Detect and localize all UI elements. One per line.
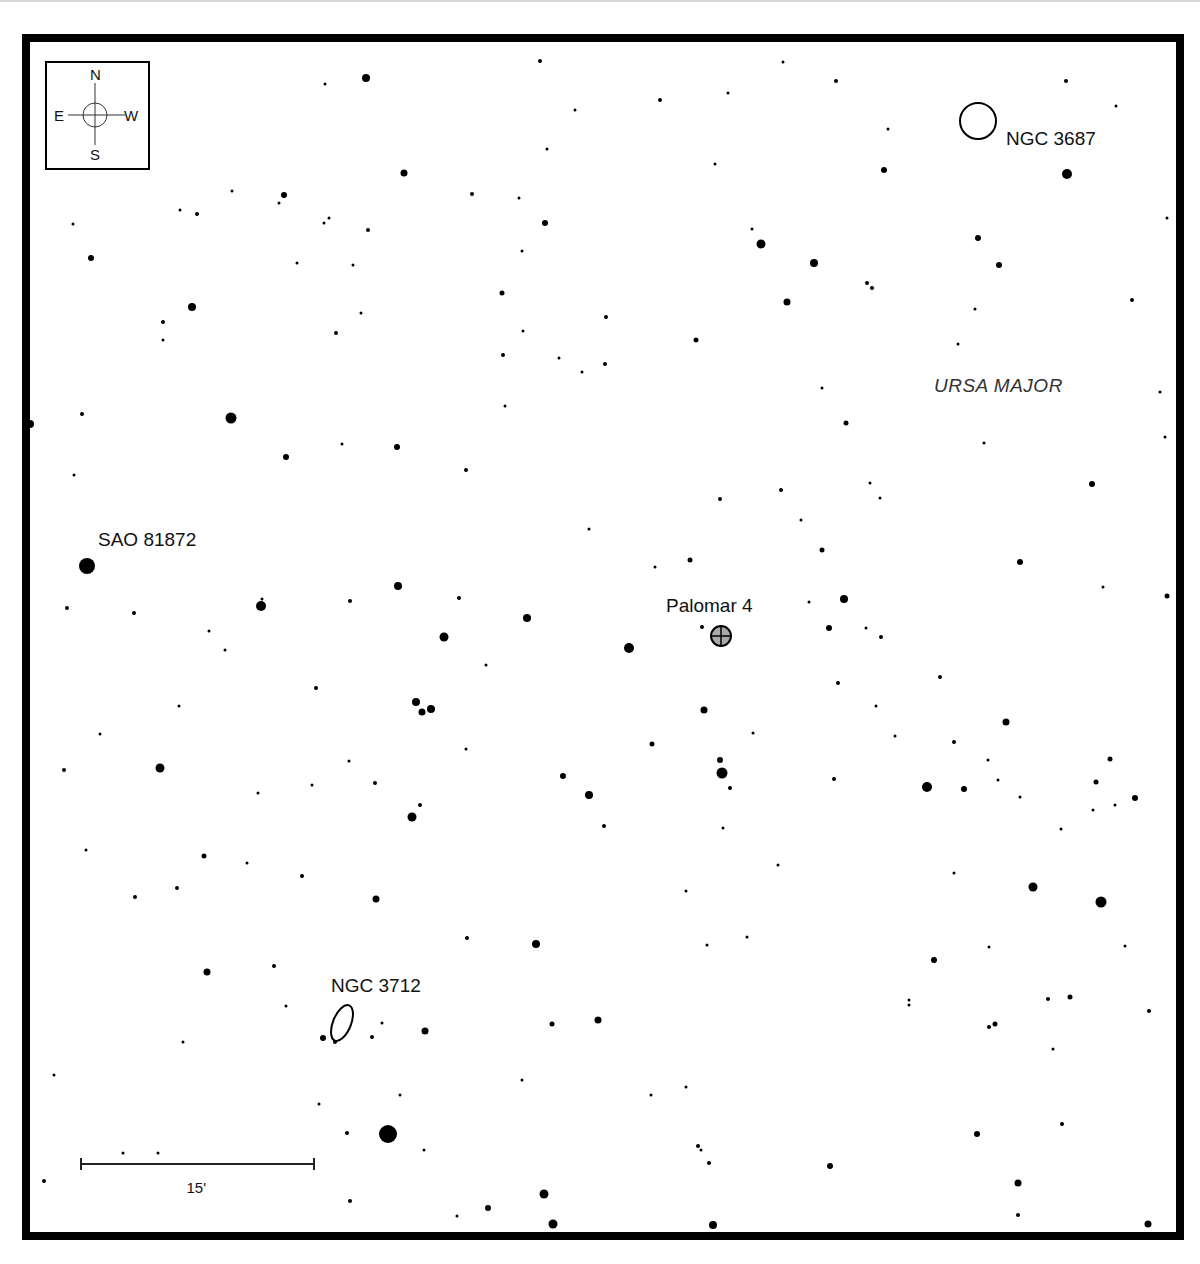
star: [500, 291, 505, 296]
star: [311, 784, 314, 787]
compass-rose: N S E W: [45, 61, 150, 170]
star: [879, 635, 883, 639]
star: [624, 643, 634, 653]
star: [1092, 809, 1095, 812]
star: [1062, 169, 1072, 179]
star: [394, 444, 400, 450]
star: [650, 1094, 653, 1097]
star: [348, 599, 352, 603]
star: [464, 468, 468, 472]
star: [257, 792, 260, 795]
star: [881, 167, 887, 173]
star: [869, 482, 872, 485]
star: [550, 1022, 555, 1027]
star: [296, 262, 299, 265]
star: [953, 872, 956, 875]
star: [974, 1131, 980, 1137]
star: [993, 1022, 998, 1027]
star: [546, 148, 549, 151]
star: [844, 421, 849, 426]
star: [161, 320, 165, 324]
star: [1166, 217, 1169, 220]
star: [366, 228, 370, 232]
star: [352, 264, 355, 267]
star: [456, 1215, 459, 1218]
star: [728, 786, 732, 790]
star: [887, 128, 890, 131]
star: [987, 759, 990, 762]
star: [348, 760, 351, 763]
label-ngc-3687: NGC 3687: [1006, 129, 1096, 148]
star: [162, 339, 165, 342]
star: [188, 303, 196, 311]
star: [278, 202, 281, 205]
star: [908, 999, 911, 1002]
ngc-3712-symbol: [327, 1002, 358, 1044]
star: [694, 338, 699, 343]
star: [922, 782, 932, 792]
star: [1094, 780, 1099, 785]
star: [997, 779, 1000, 782]
star: [285, 1005, 288, 1008]
star: [485, 664, 488, 667]
star: [394, 582, 402, 590]
star: [722, 827, 725, 830]
star: [1052, 1048, 1055, 1051]
star: [707, 1161, 711, 1165]
star: [85, 849, 88, 852]
star: [362, 74, 370, 82]
star: [401, 170, 408, 177]
star: [865, 627, 868, 630]
star: [1159, 391, 1162, 394]
star: [226, 413, 237, 424]
star: [832, 777, 836, 781]
star: [175, 886, 179, 890]
star: [1115, 105, 1118, 108]
stars-layer: [26, 59, 1170, 1229]
star: [746, 936, 749, 939]
star: [381, 1022, 384, 1025]
scale-bar-label: 15': [187, 1180, 207, 1195]
star: [654, 566, 657, 569]
star: [709, 1221, 717, 1229]
star: [470, 192, 474, 196]
star: [834, 79, 838, 83]
star: [521, 250, 524, 253]
star: [777, 864, 780, 867]
star: [457, 596, 461, 600]
star: [727, 92, 730, 95]
star: [714, 163, 717, 166]
star: [370, 1035, 374, 1039]
star: [281, 192, 287, 198]
star: [379, 1125, 397, 1143]
ngc-3687-symbol: [960, 103, 996, 139]
star: [323, 222, 326, 225]
palomar-4-symbol: [711, 626, 731, 646]
star: [549, 1220, 558, 1229]
star: [1147, 1009, 1151, 1013]
star: [300, 874, 304, 878]
star: [518, 197, 521, 200]
star: [1003, 719, 1010, 726]
star: [996, 262, 1002, 268]
star: [988, 946, 991, 949]
star: [717, 757, 723, 763]
star: [696, 1144, 700, 1148]
star: [334, 331, 338, 335]
star: [65, 606, 69, 610]
star: [782, 61, 785, 64]
star: [522, 330, 525, 333]
star: [1096, 897, 1107, 908]
star: [318, 1103, 321, 1106]
star: [72, 223, 75, 226]
star: [465, 936, 469, 940]
star: [757, 240, 766, 249]
star: [595, 1017, 602, 1024]
label-sao-81872: SAO 81872: [98, 530, 196, 549]
star: [195, 212, 199, 216]
star: [574, 109, 577, 112]
star: [717, 768, 728, 779]
star: [1068, 995, 1073, 1000]
star: [422, 1028, 429, 1035]
star: [1060, 828, 1063, 831]
